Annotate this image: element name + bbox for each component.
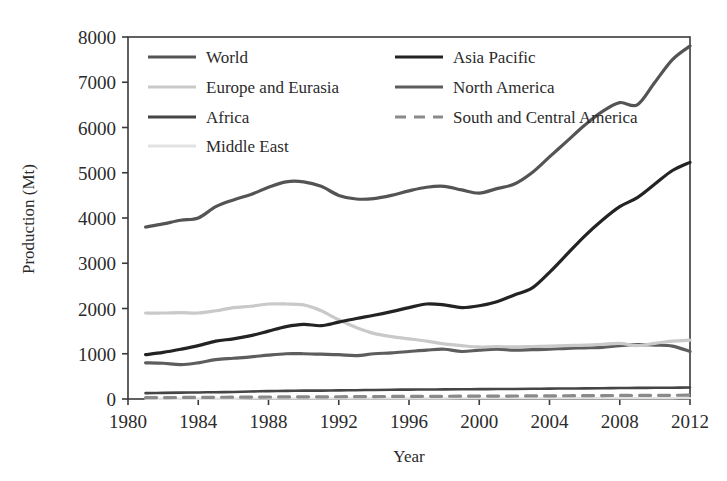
legend-item-europe-and-eurasia: Europe and Eurasia <box>148 78 340 97</box>
y-axis-title: Production (Mt) <box>19 164 38 274</box>
chart-legend: WorldAsia PacificEurope and EurasiaNorth… <box>148 48 638 156</box>
x-tick-label: 1992 <box>320 411 358 432</box>
series-line-asia-pacific <box>146 162 690 354</box>
legend-label: Africa <box>206 108 250 127</box>
legend-label: World <box>206 48 249 67</box>
x-tick-label: 2008 <box>601 411 639 432</box>
x-tick-label: 1980 <box>109 411 147 432</box>
legend-item-north-america: North America <box>395 78 555 97</box>
legend-item-asia-pacific: Asia Pacific <box>395 48 536 67</box>
y-tick-label: 2000 <box>78 299 116 320</box>
legend-label: Asia Pacific <box>453 48 536 67</box>
legend-item-world: World <box>148 48 249 67</box>
y-tick-label: 8000 <box>78 27 116 48</box>
y-tick-label: 4000 <box>78 208 116 229</box>
line-chart: 010002000300040005000600070008000 198019… <box>0 0 727 481</box>
legend-label: South and Central America <box>453 108 638 127</box>
x-tick-label: 2004 <box>531 411 570 432</box>
legend-label: Europe and Eurasia <box>206 78 340 97</box>
y-tick-label: 3000 <box>78 253 116 274</box>
y-tick-label: 0 <box>107 389 117 410</box>
y-tick-label: 6000 <box>78 118 116 139</box>
y-tick-label: 1000 <box>78 344 116 365</box>
x-tick-label: 1984 <box>179 411 218 432</box>
x-tick-label: 1996 <box>390 411 428 432</box>
legend-item-south-and-central-america: South and Central America <box>395 108 638 127</box>
series-lines <box>146 46 690 399</box>
x-axis-title: Year <box>393 447 425 466</box>
chart-figure: 010002000300040005000600070008000 198019… <box>0 0 727 481</box>
series-line-north-america <box>146 345 690 365</box>
y-tick-label: 7000 <box>78 72 116 93</box>
legend-label: North America <box>453 78 555 97</box>
y-tick-label: 5000 <box>78 163 116 184</box>
legend-item-middle-east: Middle East <box>148 137 289 156</box>
y-axis-tick-labels: 010002000300040005000600070008000 <box>78 27 116 410</box>
x-tick-label: 2000 <box>460 411 498 432</box>
series-line-africa <box>146 387 690 393</box>
x-tick-label: 1988 <box>250 411 288 432</box>
x-tick-label: 2012 <box>671 411 709 432</box>
legend-label: Middle East <box>206 137 289 156</box>
legend-item-africa: Africa <box>148 108 250 127</box>
x-axis-tick-labels: 198019841988199219962000200420082012 <box>109 411 709 432</box>
